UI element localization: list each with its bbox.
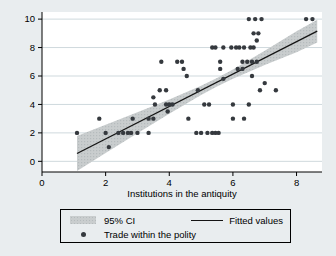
scatter-point (199, 131, 203, 135)
scatter-point (196, 88, 200, 92)
scatter-point (237, 45, 241, 49)
scatter-point (304, 17, 308, 21)
scatter-point (259, 17, 263, 21)
scatter-point (255, 38, 259, 42)
scatter-point (253, 17, 257, 21)
scatter-point (235, 67, 239, 71)
scatter-point (158, 88, 162, 92)
scatter-point (218, 67, 222, 71)
scatter-point (151, 116, 155, 120)
scatter-point (75, 131, 79, 135)
fitted-line-label: Fitted values (229, 215, 283, 226)
scatter-point (116, 131, 120, 135)
legend-row-1: 95% CI Fitted values (68, 213, 283, 227)
y-tick-label: 8 (30, 42, 35, 53)
scatter-point (207, 102, 211, 106)
scatter-point (221, 77, 225, 81)
scatter-point (258, 88, 262, 92)
x-tick-label: 0 (39, 177, 44, 188)
scatter-point (263, 81, 267, 85)
scatter-point (194, 131, 198, 135)
scatter-point (251, 31, 255, 35)
scatter-point (245, 60, 249, 64)
scatter-point (185, 74, 189, 78)
scatter-point (103, 131, 107, 135)
scatter-point (202, 102, 206, 106)
scatter-point (153, 102, 157, 106)
scatter-point (216, 131, 220, 135)
scatter-point (164, 88, 168, 92)
scatter-marker-swatch (81, 232, 86, 237)
scatter-point (310, 17, 314, 21)
y-tick-label: 4 (30, 99, 35, 110)
x-tick-label: 6 (230, 177, 235, 188)
scatter-point (146, 116, 150, 120)
scatter-point (213, 45, 217, 49)
y-tick-label: 2 (30, 127, 35, 138)
scatter-point (255, 60, 259, 64)
y-tick-label: 10 (24, 13, 35, 24)
scatter-point (240, 60, 244, 64)
scatter-point (229, 45, 233, 49)
scatter-point (165, 109, 169, 113)
x-tick-label: 2 (103, 177, 108, 188)
scatter-point (242, 116, 246, 120)
scatter-series-label: Trade within the polity (104, 229, 196, 240)
scatter-point (186, 116, 190, 120)
scatter-point (256, 31, 260, 35)
scatter-point (250, 60, 254, 64)
scatter-point (221, 45, 225, 49)
scatter-point (250, 74, 254, 78)
y-tick-label: 6 (30, 70, 35, 81)
scatter-point (151, 95, 155, 99)
scatter-point (180, 60, 184, 64)
legend-row-2: Trade within the polity (68, 227, 283, 241)
scatter-point (146, 131, 150, 135)
ci-band-swatch (70, 216, 96, 224)
scatter-point (240, 67, 244, 71)
scatter-point (170, 102, 174, 106)
scatter-point (130, 116, 134, 120)
fitted-line-swatch (191, 220, 223, 221)
scatter-point (218, 60, 222, 64)
scatter-point (121, 131, 125, 135)
scatter-point (175, 60, 179, 64)
ci-band-label: 95% CI (104, 215, 135, 226)
scatter-point (97, 116, 101, 120)
legend: 95% CI Fitted values Trade within the po… (60, 209, 291, 243)
scatter-point (159, 60, 163, 64)
scatter-point (129, 131, 133, 135)
x-tick-label: 4 (167, 177, 172, 188)
scatter-point (107, 145, 111, 149)
scatter-point (181, 67, 185, 71)
scatter-point (251, 45, 255, 49)
scatter-point (247, 17, 251, 21)
scatter-point (135, 131, 139, 135)
scatter-point (242, 45, 246, 49)
scatter-point (247, 102, 251, 106)
scatter-point (205, 131, 209, 135)
scatter-point (231, 102, 235, 106)
scatter-point (231, 116, 235, 120)
x-axis-title: Institutions in the antiquity (42, 188, 322, 199)
x-tick-label: 8 (294, 177, 299, 188)
scatter-point (274, 88, 278, 92)
y-tick-label: 0 (30, 156, 35, 167)
